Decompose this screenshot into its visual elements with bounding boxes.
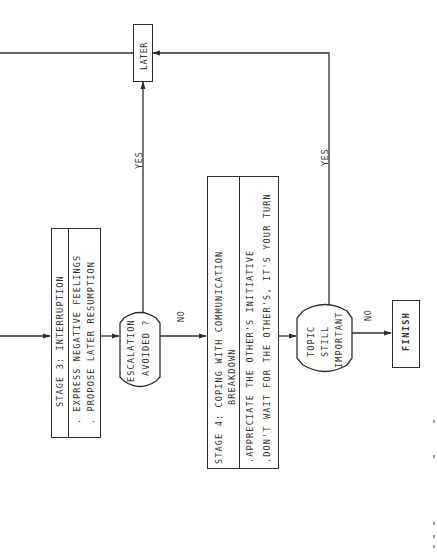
topic-line-1: TOPIC: [306, 326, 316, 357]
escalation-no-label: NO: [176, 310, 186, 322]
stage3-item-1: . EXPRESS NEGATIVE FEELINGS: [72, 255, 82, 424]
topic-line-3: IMPORTANT: [334, 312, 344, 368]
escalation-yes-label: YES: [134, 151, 144, 169]
stage4-item-2: .DON'T WAIT FOR THE OTHER'S, IT'S YOUR T…: [262, 193, 272, 463]
finish-box: FINISH: [392, 300, 420, 368]
stage4-item-1: .APPRECIATE THE OTHER'S INITIATIVE: [245, 250, 255, 463]
stage4-box: STAGE 4: COPING WITH COMMUNICATION BREAK…: [207, 176, 279, 469]
stage4-title-line1: STAGE 4: COPING WITH COMMUNICATION: [214, 251, 224, 464]
stage3-title: STAGE 3: INTERRUPTION: [55, 275, 65, 407]
topic-yes-label: YES: [320, 148, 330, 166]
stage3-box: STAGE 3: INTERRUPTION . EXPRESS NEGATIVE…: [51, 228, 101, 438]
stage3-item-2: . PROPOSE LATER RESUMPTION: [86, 261, 96, 424]
flowchart-canvas: LATER STAGE 3: INTERRUPTION . EXPRESS NE…: [0, 0, 437, 552]
scan-edge-mark: [433, 545, 435, 548]
later-box: LATER: [133, 24, 153, 82]
stage4-divider: [239, 177, 240, 468]
later-label: LATER: [139, 42, 149, 70]
stage4-title-line2: BREAKDOWN: [227, 349, 237, 405]
scan-edge-mark: [433, 420, 435, 423]
stage3-divider: [68, 229, 69, 437]
escalation-line-1: ESCALATION: [126, 319, 136, 382]
topic-line-2: STILL: [320, 326, 330, 357]
scan-edge-mark: [433, 522, 435, 525]
scan-edge-mark: [433, 535, 435, 538]
scan-edge-mark: [433, 455, 435, 458]
topic-no-label: NO: [363, 309, 373, 321]
escalation-line-2: AVOIDED ?: [141, 320, 151, 376]
finish-label: FINISH: [401, 312, 411, 351]
